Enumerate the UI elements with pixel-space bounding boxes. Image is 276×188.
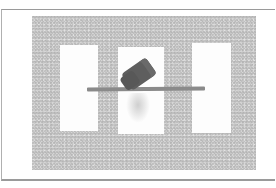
block-shadow bbox=[126, 93, 150, 123]
